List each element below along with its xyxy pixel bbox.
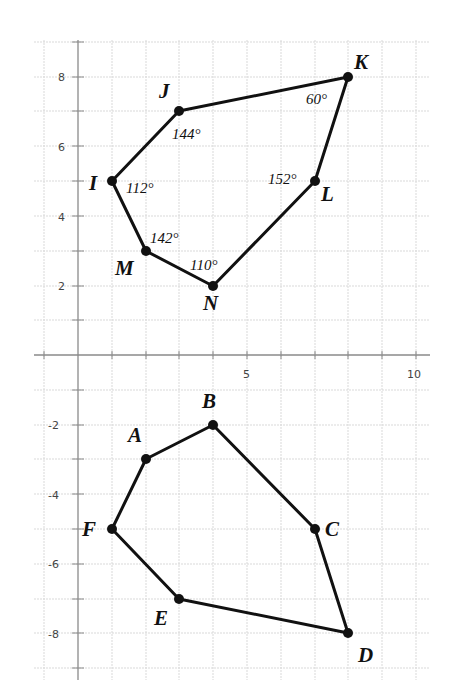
label-m: M [114, 256, 135, 280]
vertex-m [141, 246, 151, 256]
y-tick-label-neg4: -4 [48, 489, 59, 502]
label-e: E [153, 606, 168, 630]
y-tick-label-8: 8 [58, 71, 65, 84]
vertex-b [208, 420, 218, 430]
x-tick-label-5: 5 [243, 368, 250, 381]
angle-i: 112° [126, 180, 153, 196]
axes: 5 10 8 6 4 2 -2 -4 -6 -8 [34, 40, 430, 680]
vertex-n [208, 281, 218, 291]
label-c: C [325, 517, 340, 541]
angle-j: 144° [172, 126, 201, 142]
vertex-j [174, 106, 184, 116]
label-a: A [126, 423, 142, 447]
y-tick-label-6: 6 [58, 141, 65, 154]
polygon-ijklnm: I J K L N M 112° 144° 60° 152° 110° 142° [88, 50, 370, 315]
y-tick-label-2: 2 [58, 280, 65, 293]
y-tick-label-neg8: -8 [48, 628, 59, 641]
polygon-abcdef: A B C D E F [81, 389, 373, 667]
label-l: L [320, 182, 334, 206]
y-tick-label-neg2: -2 [48, 419, 59, 432]
x-tick-label-10: 10 [407, 368, 421, 381]
label-n: N [202, 291, 219, 315]
angle-m: 142° [150, 230, 179, 246]
y-tick-label-neg6: -6 [48, 558, 59, 571]
label-d: D [357, 643, 373, 667]
label-b: B [201, 389, 216, 413]
coordinate-plane: 5 10 8 6 4 2 -2 -4 -6 -8 I J K L N M 112… [0, 0, 449, 699]
vertex-e [174, 594, 184, 604]
label-i: I [88, 171, 98, 195]
angle-k: 60° [306, 91, 327, 107]
vertex-d [343, 628, 353, 638]
y-tick-label-4: 4 [58, 211, 65, 224]
label-f: F [81, 517, 96, 541]
angle-l: 152° [268, 171, 297, 187]
vertex-i [107, 176, 117, 186]
vertex-l [310, 176, 320, 186]
vertex-f [107, 524, 117, 534]
label-k: K [353, 50, 370, 74]
vertex-c [310, 524, 320, 534]
label-j: J [158, 79, 171, 103]
grid-lines [34, 40, 430, 680]
vertex-a [141, 454, 151, 464]
angle-n: 110° [190, 257, 217, 273]
vertex-k [343, 72, 353, 82]
